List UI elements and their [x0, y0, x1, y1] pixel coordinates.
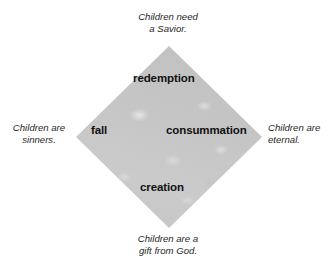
caption-right: Children are eternal.: [268, 122, 332, 146]
caption-right-line-1: Children are: [268, 122, 332, 134]
caption-bottom: Children are a gift from God.: [0, 233, 336, 257]
caption-top-line-1: Children need: [0, 11, 336, 23]
caption-left-line-1: Children are: [6, 122, 72, 134]
diamond-label-fall: fall: [91, 124, 107, 137]
caption-bottom-line-1: Children are a: [0, 233, 336, 245]
caption-right-line-2: eternal.: [268, 134, 332, 146]
diamond-diagram: redemption fall consummation creation Ch…: [0, 0, 336, 270]
caption-top: Children need a Savior.: [0, 11, 336, 35]
diamond-label-creation: creation: [140, 181, 184, 194]
caption-top-line-2: a Savior.: [0, 23, 336, 35]
diamond-label-redemption: redemption: [133, 72, 195, 85]
diamond-label-consummation: consummation: [166, 124, 247, 137]
caption-left-line-2: sinners.: [6, 134, 72, 146]
caption-bottom-line-2: gift from God.: [0, 245, 336, 257]
caption-left: Children are sinners.: [6, 122, 72, 146]
